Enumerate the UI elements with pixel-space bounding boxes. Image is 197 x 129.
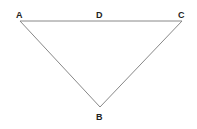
vertex-label-c: C	[178, 10, 185, 20]
vertex-label-a: A	[16, 10, 23, 20]
segment-ab	[20, 21, 100, 107]
vertex-label-b: B	[96, 112, 103, 122]
triangle-diagram: A D C B	[0, 0, 197, 129]
point-label-d: D	[96, 10, 103, 20]
segment-cb	[100, 21, 182, 107]
